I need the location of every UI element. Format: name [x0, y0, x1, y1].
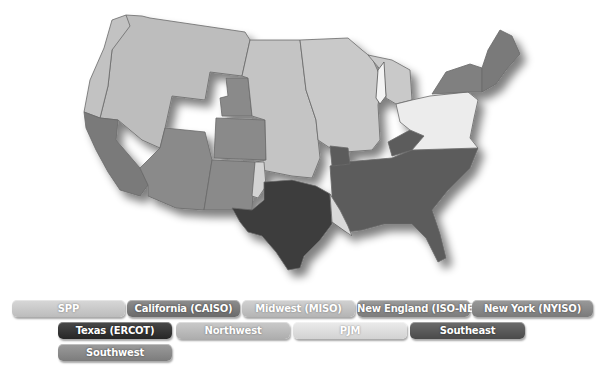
- legend-button-isone[interactable]: New England (ISO-NE): [357, 300, 470, 317]
- region-nyiso: [432, 64, 482, 94]
- region-southeast: [330, 148, 478, 262]
- legend-button-spp[interactable]: SPP: [12, 300, 125, 317]
- region-southeast-ar: [330, 146, 350, 166]
- legend-button-caiso[interactable]: California (CAISO): [127, 300, 240, 317]
- legend-button-pjm[interactable]: PJM: [293, 322, 407, 339]
- region-southwest-wy: [220, 78, 252, 116]
- legend-button-northwest[interactable]: Northwest: [176, 322, 290, 339]
- legend-button-ercot[interactable]: Texas (ERCOT): [58, 322, 172, 339]
- legend-button-nyiso[interactable]: New York (NYISO): [472, 300, 593, 317]
- region-southwest-nm: [204, 160, 255, 210]
- lake-michigan: [376, 62, 386, 104]
- legend-button-southwest[interactable]: Southwest: [58, 344, 172, 361]
- legend-button-miso[interactable]: Midwest (MISO): [242, 300, 355, 317]
- legend-button-southeast[interactable]: Southeast: [410, 322, 525, 339]
- region-southwest-co: [214, 118, 266, 160]
- us-electricity-market-map: [0, 0, 609, 295]
- region-isone: [482, 30, 520, 92]
